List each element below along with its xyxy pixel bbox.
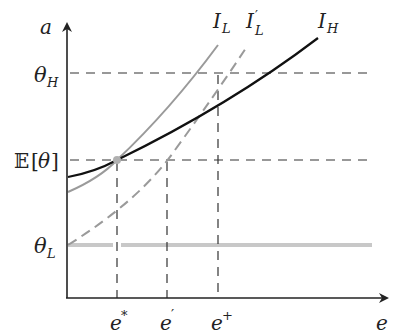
expected-theta-label: 𝔼 [ θ ]: [14, 149, 59, 173]
e-star-label: e *: [110, 308, 128, 335]
incentive-diagram: a e θ H 𝔼 [ θ ] θ L e * e ′ e + I L I ′ …: [0, 0, 402, 335]
svg-text:H: H: [326, 21, 339, 36]
svg-text:θ: θ: [34, 234, 47, 258]
svg-text:*: *: [121, 308, 128, 323]
svg-text:I: I: [317, 9, 327, 33]
curve-i-l-prime: [68, 45, 248, 245]
svg-text:L: L: [254, 23, 264, 38]
curve-label-i-l-prime: I ′ L: [245, 8, 264, 38]
svg-text:𝔼: 𝔼: [14, 149, 29, 173]
svg-text:L: L: [46, 246, 56, 261]
svg-text:+: +: [222, 308, 233, 323]
y-axis-label: a: [40, 15, 52, 39]
svg-text:]: ]: [51, 149, 59, 173]
x-axis-label: e: [376, 311, 388, 335]
curve-i-h: [68, 38, 318, 177]
svg-text:′: ′: [255, 8, 258, 23]
svg-text:H: H: [46, 75, 59, 90]
e-prime-label: e ′: [160, 307, 174, 335]
svg-text:I: I: [212, 9, 222, 33]
intersection-point: [113, 156, 121, 164]
e-plus-label: e +: [211, 308, 233, 335]
svg-text:θ: θ: [34, 63, 47, 87]
svg-text:I: I: [245, 9, 255, 33]
svg-text:L: L: [221, 21, 231, 36]
svg-text:θ: θ: [38, 149, 50, 173]
curve-label-i-h: I H: [317, 9, 339, 36]
theta-h-label: θ H: [34, 63, 59, 90]
theta-l-label: θ L: [34, 234, 56, 261]
curve-label-i-l: I L: [212, 9, 231, 36]
svg-text:′: ′: [171, 307, 174, 323]
